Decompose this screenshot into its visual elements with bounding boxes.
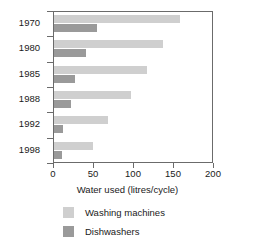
- y-axis-labels: 1970 1980 1985 1988 1992 1998: [0, 11, 48, 163]
- bar-washing-machines-1998: [54, 142, 93, 150]
- y-axis-label-1998: 1998: [19, 145, 40, 155]
- bar-group-1988: [54, 88, 212, 113]
- y-axis-label-1992: 1992: [19, 119, 40, 129]
- legend-label-dishwashers: Dishwashers: [85, 226, 139, 237]
- bar-group-1992: [54, 113, 212, 138]
- bar-washing-machines-1985: [54, 66, 147, 74]
- bar-chart: 1970 1980 1985 1988 1992 1998: [0, 0, 255, 246]
- bar-washing-machines-1970: [54, 15, 180, 23]
- legend-label-washing-machines: Washing machines: [85, 207, 165, 218]
- plot-area: [53, 11, 213, 163]
- legend-swatch-washing-machines: [63, 207, 74, 218]
- bar-dishwashers-1998: [54, 151, 62, 159]
- bar-washing-machines-1992: [54, 116, 108, 124]
- bar-washing-machines-1980: [54, 40, 163, 48]
- y-axis-label-1980: 1980: [19, 43, 40, 53]
- bar-washing-machines-1988: [54, 91, 131, 99]
- bars-container: [54, 12, 212, 162]
- bar-dishwashers-1985: [54, 75, 75, 83]
- bar-dishwashers-1988: [54, 100, 71, 108]
- bar-group-1985: [54, 63, 212, 88]
- legend-swatch-dishwashers: [63, 226, 74, 237]
- bar-dishwashers-1992: [54, 125, 63, 133]
- x-axis-label-100: 100: [125, 168, 141, 179]
- bar-group-1998: [54, 139, 212, 164]
- y-axis-label-1970: 1970: [19, 18, 40, 28]
- bar-dishwashers-1970: [54, 24, 97, 32]
- bar-group-1970: [54, 12, 212, 37]
- x-axis-label-200: 200: [205, 168, 221, 179]
- x-axis-label-50: 50: [88, 168, 99, 179]
- y-axis-label-1988: 1988: [19, 94, 40, 104]
- legend-item-dishwashers: Dishwashers: [63, 222, 243, 241]
- y-axis-label-1985: 1985: [19, 69, 40, 79]
- x-axis-labels: 0 50 100 150 200: [0, 168, 255, 180]
- chart-legend: Washing machines Dishwashers: [63, 203, 243, 241]
- legend-item-washing-machines: Washing machines: [63, 203, 243, 222]
- x-axis-label-150: 150: [165, 168, 181, 179]
- bar-dishwashers-1980: [54, 49, 86, 57]
- x-axis-title: Water used (litres/cycle): [0, 184, 255, 195]
- x-axis-label-0: 0: [50, 168, 55, 179]
- bar-group-1980: [54, 37, 212, 62]
